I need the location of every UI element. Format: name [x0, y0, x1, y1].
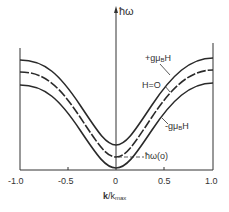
label-plus-end: H	[164, 53, 171, 63]
label-plus-field: +gμBH	[145, 53, 171, 65]
x-axis-label-sub: max	[115, 195, 126, 201]
x-tick-label: 1.0	[205, 176, 218, 186]
x-tick-label: 0.5	[158, 176, 171, 186]
label-plus-text: +gμ	[145, 53, 160, 63]
leader-plus	[160, 64, 170, 75]
label-minus-field: -gμBH	[165, 121, 189, 133]
label-minus-text: -gμ	[165, 121, 178, 131]
x-tick-label: -1.0	[8, 176, 24, 186]
x-axis-label-sep: /k	[108, 191, 115, 201]
y-axis-label: ħω	[119, 6, 134, 16]
leader-zero	[165, 86, 170, 92]
x-axis-label: k/kmax	[103, 191, 126, 203]
label-zero-field: H=O	[142, 80, 161, 90]
y-axis-arrow-icon	[114, 6, 118, 13]
label-minus-end: H	[182, 121, 189, 131]
x-tick-label: -0.5	[58, 176, 74, 186]
x-tick-label: 0	[113, 176, 118, 186]
label-gap: ħω(o)	[145, 151, 168, 161]
